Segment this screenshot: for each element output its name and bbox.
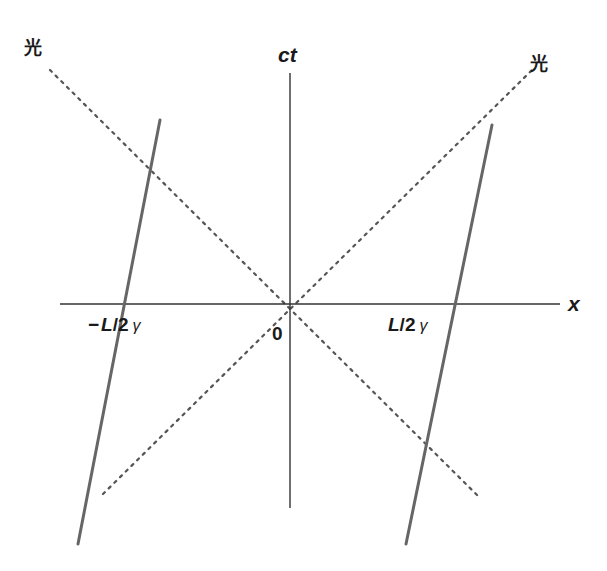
light-line-descending — [50, 70, 478, 496]
light-label-left: 光 — [23, 37, 42, 58]
light-line-ascending — [103, 70, 532, 494]
light-label-right: 光 — [529, 53, 548, 74]
left-worldline-label: −L/2γ — [88, 314, 142, 335]
origin-label: 0 — [272, 323, 283, 344]
minus-sign: − — [88, 314, 99, 335]
L-symbol: L — [101, 314, 113, 335]
L-symbol: L — [388, 314, 400, 335]
worldline-right — [406, 125, 492, 544]
half-fraction: /2 — [113, 314, 129, 335]
half-fraction: /2 — [400, 314, 416, 335]
right-worldline-label: L/2γ — [388, 314, 428, 335]
gamma-symbol: γ — [133, 317, 142, 334]
spacetime-diagram: ct x 0 光 光 −L/2γ L/2γ — [0, 0, 607, 571]
x-axis-label: x — [567, 292, 581, 315]
gamma-symbol: γ — [419, 317, 428, 334]
ct-axis-label: ct — [278, 43, 298, 66]
